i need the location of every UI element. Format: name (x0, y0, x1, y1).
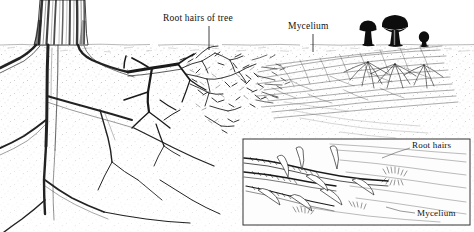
mycorrhiza-figure: Root hairs of tree Mycelium (0, 0, 474, 232)
label-mycelium-inset: Mycelium (417, 209, 456, 218)
detail-inset-panel (0, 0, 474, 232)
label-root-hairs-inset: Root hairs (412, 141, 451, 150)
